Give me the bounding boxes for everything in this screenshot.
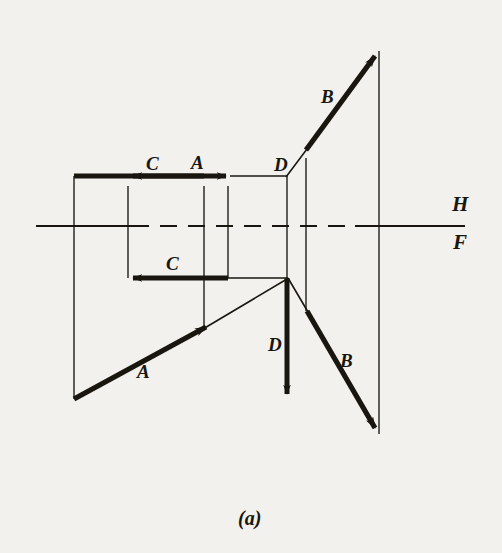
label-A-front: A	[137, 362, 150, 381]
label-C-top: C	[146, 154, 159, 173]
label-H-plane: H	[452, 194, 468, 215]
label-D-front: D	[268, 335, 282, 354]
label-F-plane: F	[453, 232, 467, 253]
label-D-top: D	[274, 155, 288, 174]
label-A-top: A	[191, 153, 204, 172]
top-view-group	[74, 56, 375, 177]
figure-caption: (a)	[238, 508, 261, 528]
leader-B-front-thin	[288, 278, 308, 312]
leader-D-to-B-top	[286, 149, 307, 177]
descriptive-geometry-diagram	[0, 0, 502, 553]
label-B-front: B	[340, 351, 353, 370]
label-B-top: B	[321, 87, 334, 106]
front-view-group	[74, 278, 375, 428]
figure-page: C A D B C A D B H F (a)	[0, 0, 502, 553]
leader-A-front-thin	[203, 279, 287, 329]
label-C-front: C	[166, 254, 179, 273]
vector-B-top	[306, 56, 375, 150]
